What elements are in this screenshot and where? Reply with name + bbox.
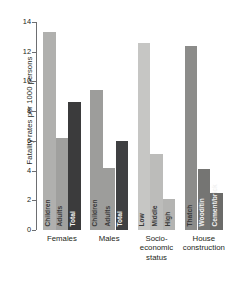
y-axis-tick-label: 2: [9, 196, 31, 203]
bar: Adults: [56, 138, 69, 230]
bar: Wood/tin: [198, 169, 211, 230]
bar-label: Low: [140, 214, 147, 227]
y-axis-tick-mark: [32, 81, 36, 82]
y-axis-tick-label: 14: [9, 18, 31, 25]
bar-label: Thatch: [187, 205, 194, 227]
bar: Thatch: [185, 46, 198, 230]
y-axis-tick-mark: [32, 171, 36, 172]
bar: Low: [138, 43, 151, 230]
bar-label: Middle: [152, 206, 159, 227]
y-axis-tick-label: 8: [9, 107, 31, 114]
y-axis-tick-label: 0: [9, 226, 31, 233]
bar-label: Children: [45, 200, 52, 227]
x-axis-group-label-line: status: [117, 253, 197, 262]
bar-label: Children: [93, 200, 100, 227]
bar: Total: [116, 141, 129, 230]
y-axis-tick-mark: [32, 111, 36, 112]
bar: Middle: [150, 154, 163, 230]
bar: Adults: [103, 168, 116, 230]
x-axis-group-label-line: House: [164, 234, 241, 243]
y-axis-tick-mark: [32, 52, 36, 53]
y-axis-tick-label: 12: [9, 48, 31, 55]
bar: Children: [90, 90, 103, 230]
y-axis-tick-mark: [32, 230, 36, 231]
bar-label: Wood/tin: [200, 199, 207, 227]
y-axis-tick-label: 4: [9, 167, 31, 174]
bar-label: High: [165, 212, 172, 227]
bar-label: Total: [70, 211, 77, 227]
bar: Children: [43, 32, 56, 230]
bar-label: Cement/brick: [212, 185, 219, 227]
y-axis-tick-mark: [32, 22, 36, 23]
y-axis-tick-label: 6: [9, 137, 31, 144]
x-axis-group-label: Houseconstruction: [164, 234, 241, 253]
bar-chart-figure: Fatality rates per 1000 persons 02468101…: [0, 0, 241, 290]
bar: Total: [68, 102, 81, 230]
bars-layer: ChildrenAdultsTotalChildrenAdultsTotalLo…: [37, 22, 232, 230]
x-axis-group-labels: FemalesMalesSocio-economicstatusHousecon…: [36, 234, 232, 288]
x-axis-group-label-line: construction: [164, 243, 241, 252]
bar-label: Adults: [105, 206, 112, 227]
bar: High: [163, 199, 176, 230]
plot-area: 02468101214 ChildrenAdultsTotalChildrenA…: [36, 22, 232, 230]
y-axis-tick-label: 10: [9, 77, 31, 84]
y-axis-tick-mark: [32, 141, 36, 142]
y-axis-tick-mark: [32, 200, 36, 201]
bar: Cement/brick: [210, 193, 223, 230]
bar-label: Total: [118, 211, 125, 227]
bar-label: Adults: [58, 206, 65, 227]
